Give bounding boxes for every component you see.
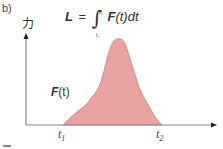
formula-integrand: F(t)dt <box>107 9 138 24</box>
tick-label-t2: t2 <box>156 127 163 143</box>
impulse-formula: L = ∫ t₂ t₁ F(t)dt <box>65 8 139 36</box>
formula-lhs: L <box>65 9 73 24</box>
t1-sub: 1 <box>61 134 65 143</box>
integrand-rest: (t)dt <box>115 9 138 24</box>
lower-limit: t₁ <box>96 25 100 45</box>
tick-label-t1: t1 <box>58 127 65 143</box>
curve-label-arg: (t) <box>58 85 69 99</box>
integral-icon: ∫ t₂ t₁ <box>92 8 104 28</box>
y-axis-label: 力 <box>22 14 34 31</box>
force-curve-area <box>63 39 162 125</box>
panel-label: b) <box>2 2 12 14</box>
y-axis-arrow-icon <box>24 33 29 39</box>
formula-equals: = <box>79 9 87 24</box>
x-axis-arrow-icon <box>211 123 217 128</box>
upper-limit: t₂ <box>99 2 103 22</box>
curve-label: F(t) <box>51 85 70 99</box>
t2-sub: 2 <box>159 134 163 143</box>
footer-mark <box>3 145 11 147</box>
